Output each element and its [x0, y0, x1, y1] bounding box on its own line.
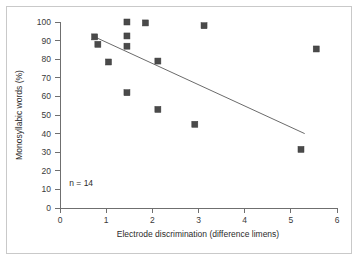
y-tick-label: 0 [46, 203, 51, 213]
x-axis-title: Electrode discrimination (difference lim… [117, 229, 280, 239]
x-tick-label: 1 [104, 215, 109, 225]
data-point [313, 46, 319, 52]
y-tick-label: 80 [42, 54, 52, 64]
x-tick-label: 6 [335, 215, 340, 225]
sample-size-annotation: n = 14 [69, 178, 93, 188]
data-point [298, 146, 304, 152]
chart-canvas: 0102030405060708090100 0123456 n = 14 El… [0, 0, 360, 262]
regression-line [95, 37, 305, 134]
data-point [124, 33, 130, 39]
regression-line-group [95, 37, 305, 134]
data-point [155, 58, 161, 64]
y-axis-title: Monosyllabic words (%) [14, 70, 24, 160]
data-point [124, 19, 130, 25]
y-tick-label: 30 [42, 147, 52, 157]
data-point [95, 41, 101, 47]
y-tick-label: 60 [42, 91, 52, 101]
x-tick-label: 3 [196, 215, 201, 225]
data-point [92, 34, 98, 40]
data-point [124, 43, 130, 49]
data-points-group [92, 19, 320, 152]
data-point [142, 20, 148, 26]
y-tick-label: 70 [42, 73, 52, 83]
x-tick-label: 5 [288, 215, 293, 225]
data-point [155, 106, 161, 112]
y-tick-label: 100 [37, 17, 51, 27]
data-point [105, 59, 111, 65]
x-tick-label: 4 [242, 215, 247, 225]
data-point [124, 90, 130, 96]
annotations-group: n = 14 [69, 178, 93, 188]
y-tick-label: 90 [42, 36, 52, 46]
y-tick-label: 20 [42, 166, 52, 176]
scatter-plot-figure: 0102030405060708090100 0123456 n = 14 El… [0, 0, 360, 262]
y-tick-label: 40 [42, 129, 52, 139]
axes-group [60, 22, 337, 208]
x-tick-label: 2 [150, 215, 155, 225]
y-axis-ticks: 0102030405060708090100 [37, 17, 60, 213]
y-tick-label: 50 [42, 110, 52, 120]
x-axis-ticks: 0123456 [58, 208, 340, 225]
y-tick-label: 10 [42, 184, 52, 194]
x-tick-label: 0 [58, 215, 63, 225]
data-point [192, 121, 198, 127]
data-point [201, 23, 207, 29]
